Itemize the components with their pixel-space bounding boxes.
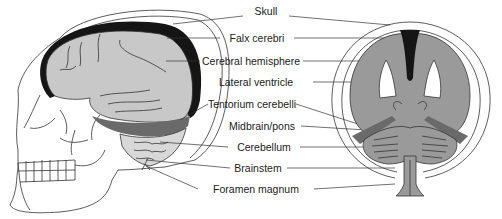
- label-cerebral-hemisphere: Cerebral hemisphere: [202, 55, 300, 67]
- label-skull: Skull: [255, 5, 278, 17]
- label-lateral-ventricle: Lateral ventricle: [219, 76, 293, 88]
- coronal-view: [332, 22, 490, 196]
- cerebrum: [46, 31, 192, 122]
- label-brainstem: Brainstem: [234, 162, 281, 174]
- label-cerebellum: Cerebellum: [237, 141, 291, 153]
- teeth: [18, 160, 75, 182]
- sagittal-view: [10, 10, 229, 213]
- jaw: [20, 150, 105, 210]
- label-foramen-magnum: Foramen magnum: [213, 183, 299, 195]
- label-falx-cerebri: Falx cerebri: [230, 32, 285, 44]
- face-detail: [24, 95, 100, 155]
- label-tentorium-cerebelli: Tentorium cerebelli: [208, 98, 296, 110]
- label-midbrain-pons: Midbrain/pons: [229, 120, 295, 132]
